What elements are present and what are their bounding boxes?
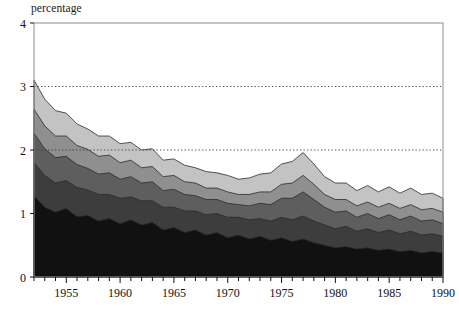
y-axis-ticks bbox=[30, 23, 34, 277]
y-tick-label-1: 1 bbox=[20, 207, 26, 221]
area-bands bbox=[34, 80, 443, 277]
plot-area: 19551960196519701975198019851990 01234 bbox=[0, 0, 459, 310]
chart-container: percentage 19551960196519701975198019851… bbox=[0, 0, 459, 310]
x-axis-ticks bbox=[34, 277, 443, 283]
x-tick-label-1965: 1965 bbox=[162, 286, 186, 300]
x-tick-label-1985: 1985 bbox=[377, 286, 401, 300]
y-axis-tick-labels: 01234 bbox=[20, 17, 26, 285]
x-tick-label-1975: 1975 bbox=[270, 286, 294, 300]
x-axis-tick-labels: 19551960196519701975198019851990 bbox=[54, 286, 455, 300]
x-tick-label-1960: 1960 bbox=[108, 286, 132, 300]
x-tick-label-1990: 1990 bbox=[431, 286, 455, 300]
stacked-area-chart: 19551960196519701975198019851990 01234 bbox=[0, 0, 459, 310]
y-tick-label-3: 3 bbox=[20, 80, 26, 94]
x-tick-label-1955: 1955 bbox=[54, 286, 78, 300]
y-tick-label-2: 2 bbox=[20, 144, 26, 158]
x-tick-label-1970: 1970 bbox=[216, 286, 240, 300]
x-tick-label-1980: 1980 bbox=[323, 286, 347, 300]
y-tick-label-0: 0 bbox=[20, 271, 26, 285]
y-tick-label-4: 4 bbox=[20, 17, 26, 31]
